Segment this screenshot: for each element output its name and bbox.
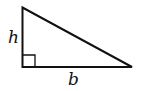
- triangle-shape: [23, 8, 133, 68]
- right-triangle-diagram: h b: [0, 0, 144, 91]
- height-label: h: [8, 27, 19, 47]
- base-label: b: [68, 69, 79, 89]
- right-angle-marker: [23, 55, 36, 67]
